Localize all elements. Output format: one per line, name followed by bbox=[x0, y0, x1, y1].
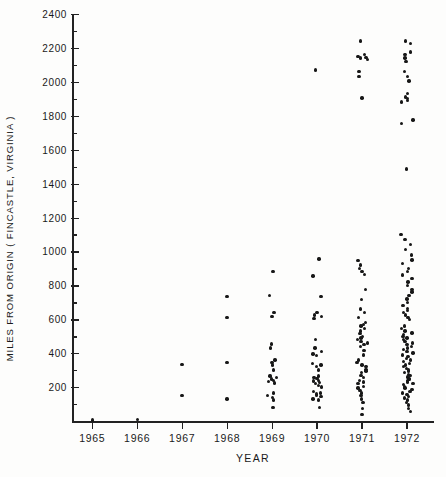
x-tick-mark bbox=[272, 421, 273, 429]
data-point bbox=[317, 398, 320, 401]
data-point bbox=[272, 368, 275, 371]
data-point bbox=[405, 350, 408, 353]
data-point bbox=[408, 390, 411, 393]
data-point bbox=[362, 385, 365, 388]
plot-area: 2004006008001000120014001600180020002200… bbox=[72, 14, 434, 422]
data-point bbox=[270, 342, 273, 345]
y-tick-mark bbox=[71, 353, 79, 354]
y-tick-mark bbox=[72, 99, 77, 100]
data-point bbox=[404, 60, 407, 63]
data-point bbox=[360, 363, 363, 366]
x-tick-label: 1966 bbox=[124, 432, 150, 444]
data-point bbox=[409, 243, 412, 246]
data-point bbox=[366, 341, 369, 344]
data-point bbox=[319, 295, 322, 298]
data-point bbox=[318, 406, 321, 409]
scatter-plot-figure: MILES FROM ORIGIN ( FINCASTLE, VIRGINIA … bbox=[0, 0, 446, 477]
data-point bbox=[401, 391, 404, 394]
data-point bbox=[363, 273, 366, 276]
data-point bbox=[180, 394, 183, 397]
data-point bbox=[409, 410, 412, 413]
data-point bbox=[360, 413, 363, 416]
y-tick-label: 1000 bbox=[42, 246, 67, 257]
y-tick-label: 1400 bbox=[42, 178, 67, 189]
data-point bbox=[271, 363, 274, 366]
data-point bbox=[411, 382, 414, 385]
y-tick-mark bbox=[72, 370, 77, 371]
data-point bbox=[404, 39, 407, 42]
data-point bbox=[314, 68, 317, 71]
data-point bbox=[359, 56, 362, 59]
data-point bbox=[406, 270, 409, 273]
y-tick-mark bbox=[72, 336, 77, 337]
y-tick-mark bbox=[72, 31, 77, 32]
y-tick-mark bbox=[71, 387, 79, 388]
data-point bbox=[320, 385, 323, 388]
data-point bbox=[275, 376, 278, 379]
y-tick-label: 1800 bbox=[42, 110, 67, 121]
x-tick-label: 1965 bbox=[79, 432, 105, 444]
data-point bbox=[409, 42, 412, 45]
data-point bbox=[356, 382, 359, 385]
data-point bbox=[359, 39, 362, 42]
x-tick-mark bbox=[227, 421, 228, 429]
data-point bbox=[360, 298, 363, 301]
data-point bbox=[272, 398, 275, 401]
y-tick-label: 2000 bbox=[42, 76, 67, 87]
data-point bbox=[317, 368, 320, 371]
data-point bbox=[225, 316, 228, 319]
data-point bbox=[266, 394, 269, 397]
data-point bbox=[357, 75, 360, 78]
data-point bbox=[225, 295, 228, 298]
data-point bbox=[407, 79, 410, 82]
data-point bbox=[357, 70, 360, 73]
data-point bbox=[406, 75, 409, 78]
data-point bbox=[362, 349, 365, 352]
data-point bbox=[403, 238, 406, 241]
data-point bbox=[363, 327, 366, 330]
y-tick-mark bbox=[72, 167, 77, 168]
data-point bbox=[271, 406, 274, 409]
data-point bbox=[410, 290, 413, 293]
data-point bbox=[362, 376, 365, 379]
x-tick-mark bbox=[92, 421, 93, 429]
data-point bbox=[410, 345, 413, 348]
data-point bbox=[411, 118, 414, 121]
data-point bbox=[364, 288, 367, 291]
data-point bbox=[359, 307, 362, 310]
y-tick-label: 600 bbox=[49, 314, 68, 325]
data-point bbox=[410, 277, 413, 280]
y-tick-label: 1200 bbox=[42, 212, 67, 223]
data-point bbox=[409, 50, 412, 53]
data-point bbox=[225, 397, 228, 400]
x-tick-label: 1969 bbox=[259, 432, 285, 444]
x-tick-label: 1968 bbox=[214, 432, 240, 444]
data-point bbox=[270, 315, 273, 318]
y-tick-label: 200 bbox=[49, 382, 68, 393]
data-point bbox=[312, 317, 315, 320]
data-point bbox=[403, 371, 406, 374]
x-tick-mark bbox=[361, 421, 362, 429]
x-tick-label: 1972 bbox=[394, 432, 420, 444]
y-tick-mark bbox=[71, 48, 79, 49]
y-tick-mark bbox=[72, 234, 77, 235]
data-point bbox=[406, 284, 409, 287]
y-tick-label: 2200 bbox=[42, 42, 67, 53]
x-axis-title: YEAR bbox=[72, 452, 434, 464]
data-point bbox=[366, 58, 369, 61]
data-point bbox=[362, 380, 365, 383]
data-point bbox=[401, 262, 404, 265]
data-point bbox=[362, 353, 365, 356]
y-tick-mark bbox=[71, 251, 79, 252]
data-point bbox=[363, 311, 366, 314]
data-point bbox=[359, 345, 362, 348]
data-point bbox=[317, 257, 320, 260]
data-point bbox=[267, 380, 270, 383]
data-point bbox=[272, 391, 275, 394]
y-tick-mark bbox=[71, 14, 79, 15]
data-point bbox=[410, 253, 413, 256]
data-point bbox=[406, 99, 409, 102]
y-tick-mark bbox=[71, 82, 79, 83]
data-point bbox=[268, 294, 271, 297]
data-point bbox=[405, 357, 408, 360]
